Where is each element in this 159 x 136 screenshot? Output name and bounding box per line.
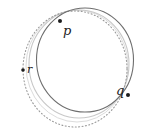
faint-gray-circle-curve <box>26 10 128 122</box>
point-label-p: p <box>63 24 71 37</box>
geometric-diagram: p q r <box>0 0 159 136</box>
point-marker-p <box>58 19 62 23</box>
diagram-canvas <box>0 0 159 136</box>
point-marker-q <box>126 93 130 97</box>
point-label-r: r <box>27 64 32 75</box>
point-marker-r <box>21 68 25 72</box>
point-label-q: q <box>116 84 124 97</box>
